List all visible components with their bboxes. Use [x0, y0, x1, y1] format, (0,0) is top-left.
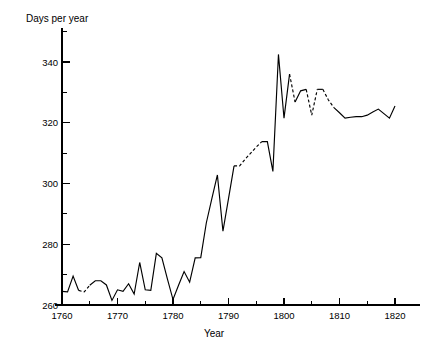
data-series-group [62, 54, 395, 300]
x-axis-ticks: 1760177017801790180018101820 [51, 298, 405, 321]
x-tick-label: 1780 [162, 310, 183, 321]
series-line-dashed [79, 285, 90, 292]
line-chart-canvas: Days per year 260280300320340 1760177017… [0, 0, 429, 355]
x-tick-label: 1790 [218, 310, 239, 321]
series-line-dashed [290, 74, 296, 102]
x-tick-label: 1770 [107, 310, 128, 321]
x-axis-title: Year [204, 328, 225, 339]
axis-lines [55, 28, 420, 305]
y-axis-ticks: 260280300320340 [42, 32, 70, 311]
series-line-solid [90, 166, 234, 301]
y-tick-label: 280 [42, 239, 58, 250]
x-tick-label: 1810 [329, 310, 350, 321]
y-tick-label: 340 [42, 57, 58, 68]
y-tick-label: 300 [42, 178, 58, 189]
x-tick-label: 1800 [273, 310, 294, 321]
series-line-dashed [234, 142, 262, 166]
x-tick-label: 1820 [384, 310, 405, 321]
x-tick-label: 1760 [51, 310, 72, 321]
chart-figure: Days per year 260280300320340 1760177017… [0, 0, 429, 355]
series-line-dashed [323, 89, 334, 107]
y-tick-label: 320 [42, 117, 58, 128]
y-axis-title: Days per year [26, 13, 89, 24]
y-tick-label: 260 [42, 300, 58, 311]
series-line-solid [334, 106, 395, 118]
series-line-solid [295, 89, 306, 102]
series-line-solid [62, 276, 79, 292]
series-line-solid [262, 54, 290, 171]
series-line-dashed [306, 89, 317, 115]
